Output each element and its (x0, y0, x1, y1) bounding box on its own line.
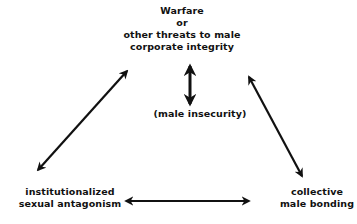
node-sexual-antagonism-line-2: sexual antagonism (0, 198, 140, 210)
node-warfare-line-4: corporate integrity (92, 41, 272, 53)
node-warfare: Warfare or other threats to male corpora… (92, 5, 272, 53)
node-warfare-line-1: Warfare (92, 5, 272, 17)
node-warfare-line-2: or (92, 17, 272, 29)
node-sexual-antagonism: institutionalized sexual antagonism (0, 186, 140, 210)
node-male-insecurity: (male insecurity) (140, 108, 260, 120)
node-male-bonding-line-2: male bonding (262, 198, 357, 210)
arrow-top-left (38, 71, 127, 170)
node-sexual-antagonism-line-1: institutionalized (0, 186, 140, 198)
arrow-top-right (249, 77, 302, 176)
node-male-bonding-line-1: collective (262, 186, 357, 198)
node-male-bonding: collective male bonding (262, 186, 357, 210)
node-warfare-line-3: other threats to male (92, 29, 272, 41)
